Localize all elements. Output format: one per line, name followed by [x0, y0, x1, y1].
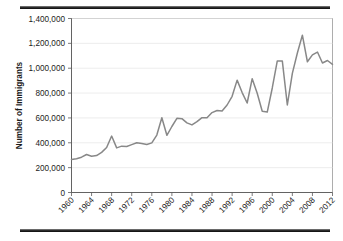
x-axis-tick-labels: 1960196419681972197619801984198819921996…	[57, 195, 338, 215]
y-axis-title: Number of Immigrants	[15, 61, 24, 149]
x-tick-label: 1960	[57, 195, 77, 215]
bottom-rule	[20, 229, 330, 232]
x-tick-label: 1972	[117, 195, 137, 215]
y-axis-ticks	[68, 19, 72, 193]
y-tick-label: 1,400,000	[29, 15, 66, 24]
y-tick-label: 1,200,000	[29, 39, 66, 48]
x-tick-label: 2008	[298, 195, 318, 215]
x-tick-label: 1996	[237, 195, 257, 215]
plot-frame	[72, 19, 333, 193]
y-tick-label: 200,000	[35, 164, 65, 173]
top-rule	[20, 6, 330, 9]
x-tick-label: 1980	[157, 195, 177, 215]
y-tick-label: 0	[60, 189, 65, 198]
x-tick-label: 1988	[197, 195, 217, 215]
x-tick-label: 1964	[77, 195, 97, 215]
figure-container: 0200,000400,000600,000800,0001,000,0001,…	[0, 0, 343, 241]
x-tick-label: 1968	[97, 195, 117, 215]
y-tick-label: 800,000	[35, 89, 65, 98]
chart-area: 0200,000400,000600,000800,0001,000,0001,…	[0, 12, 343, 228]
y-tick-label: 1,000,000	[29, 64, 66, 73]
x-tick-label: 2004	[278, 195, 298, 215]
x-tick-label: 1984	[177, 195, 197, 215]
x-tick-label: 1976	[137, 195, 157, 215]
y-tick-label: 400,000	[35, 139, 65, 148]
line-chart: 0200,000400,000600,000800,0001,000,0001,…	[0, 12, 343, 228]
y-tick-label: 600,000	[35, 114, 65, 123]
x-tick-label: 2000	[257, 195, 277, 215]
x-tick-label: 2012	[318, 195, 338, 215]
x-axis-ticks	[72, 193, 333, 197]
x-tick-label: 1992	[217, 195, 237, 215]
y-axis-tick-labels: 0200,000400,000600,000800,0001,000,0001,…	[29, 15, 66, 198]
